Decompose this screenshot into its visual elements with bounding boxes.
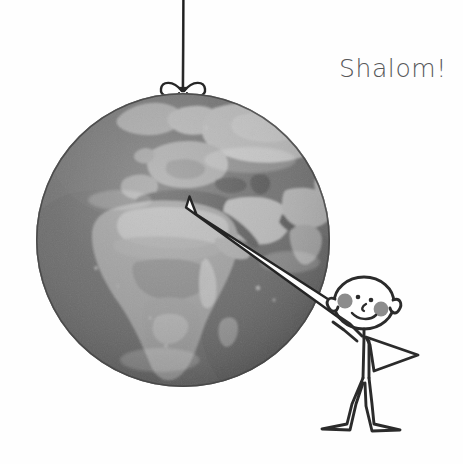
cheek-left-icon [337, 293, 352, 308]
stick-figure-person [322, 277, 418, 431]
earth-globe [0, 80, 370, 415]
eye-left-icon [356, 295, 361, 300]
illustration-canvas: Shalom! [0, 0, 463, 464]
eye-right-icon [369, 298, 374, 303]
hanging-string [183, 0, 184, 90]
greeting-text: Shalom! [339, 56, 447, 81]
